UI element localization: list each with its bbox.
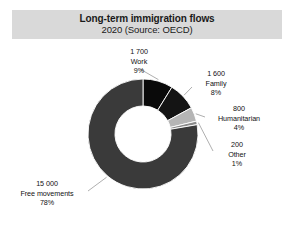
- slice-percent-work: 9%: [113, 66, 165, 76]
- page-title: Long-term immigration flows: [79, 14, 214, 25]
- chart-figure: Long-term immigration flows 2020 (Source…: [0, 0, 290, 248]
- chart-plot-area: 1 700 Work 9% 1 600 Family 8% 800 Humani…: [0, 39, 290, 248]
- chart-subtitle: 2020 (Source: OECD): [101, 25, 192, 35]
- slice-name-humanitarian: Humanitarian: [202, 114, 276, 124]
- leader-line-free-movements: [88, 177, 107, 191]
- slice-label-work: 1 700 Work 9%: [113, 47, 165, 76]
- slice-label-free-movements: 15 000 Free movements 78%: [6, 179, 88, 208]
- slice-name-family: Family: [190, 79, 242, 89]
- slice-name-other: Other: [213, 150, 261, 160]
- slice-percent-humanitarian: 4%: [202, 123, 276, 133]
- donut-slices: [88, 79, 198, 189]
- slice-value-family: 1 600: [190, 69, 242, 79]
- slice-name-free-movements: Free movements: [6, 189, 88, 199]
- slice-label-other: 200 Other 1%: [213, 140, 261, 169]
- slice-label-family: 1 600 Family 8%: [190, 69, 242, 98]
- chart-title-band: Long-term immigration flows 2020 (Source…: [12, 10, 282, 39]
- slice-percent-other: 1%: [213, 159, 261, 169]
- slice-value-other: 200: [213, 140, 261, 150]
- slice-value-work: 1 700: [113, 47, 165, 57]
- slice-percent-family: 8%: [190, 88, 242, 98]
- slice-name-work: Work: [113, 57, 165, 67]
- slice-percent-free-movements: 78%: [6, 198, 88, 208]
- slice-label-humanitarian: 800 Humanitarian 4%: [202, 104, 276, 133]
- slice-value-humanitarian: 800: [202, 104, 276, 114]
- slice-value-free-movements: 15 000: [6, 179, 88, 189]
